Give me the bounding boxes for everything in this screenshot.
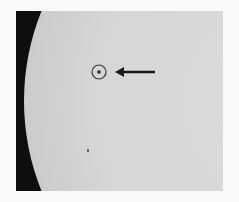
- annotation-overlay: [0, 0, 239, 202]
- marked-spot: [98, 71, 101, 74]
- arrow-left-icon: [115, 67, 155, 77]
- small-speck: [87, 149, 89, 152]
